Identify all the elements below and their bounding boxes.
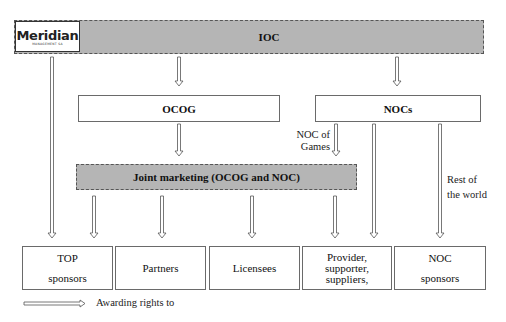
top-sponsors-line1: TOP bbox=[57, 252, 78, 264]
ioc-label: IOC bbox=[259, 31, 280, 43]
noc-sponsors-box: NOC sponsors bbox=[394, 246, 486, 290]
licensees-label: Licensees bbox=[233, 262, 276, 274]
legend-arrow-icon bbox=[24, 300, 85, 307]
joint-marketing-label: Joint marketing (OCOG and NOC) bbox=[133, 171, 300, 183]
arrow-nocs-joint bbox=[332, 124, 340, 156]
provider-line1: Provider, bbox=[327, 252, 367, 263]
arrow-joint-licensees bbox=[248, 196, 256, 238]
noc-sponsors-line1: NOC bbox=[428, 252, 451, 264]
noc-of-games-label: NOC of Games bbox=[292, 129, 330, 153]
arrow-nocs-provider bbox=[370, 124, 378, 238]
arrow-ioc-top bbox=[48, 57, 56, 238]
arrow-joint-top bbox=[90, 196, 98, 238]
noc-sponsors-line2: sponsors bbox=[421, 272, 460, 284]
noc-of-games-line2: Games bbox=[292, 141, 330, 153]
rest-of-world-line1: Rest of bbox=[447, 174, 487, 186]
meridian-logo: Meridian MANAGEMENT SA bbox=[15, 21, 80, 52]
arrow-joint-provider bbox=[331, 196, 339, 238]
legend-label: Awarding rights to bbox=[96, 297, 174, 309]
ioc-box: IOC bbox=[14, 20, 484, 54]
nocs-box: NOCs bbox=[315, 95, 481, 122]
rest-of-world-label: Rest of the world bbox=[447, 174, 487, 201]
nocs-label: NOCs bbox=[384, 103, 413, 115]
ocog-box: OCOG bbox=[78, 95, 280, 122]
arrow-joint-partners bbox=[158, 196, 166, 238]
noc-of-games-line1: NOC of bbox=[292, 129, 330, 141]
top-sponsors-line2: sponsors bbox=[48, 272, 87, 284]
top-sponsors-box: TOP sponsors bbox=[22, 246, 113, 290]
arrow-ocog-joint bbox=[175, 124, 183, 156]
partners-box: Partners bbox=[115, 246, 206, 290]
joint-marketing-box: Joint marketing (OCOG and NOC) bbox=[76, 164, 357, 190]
logo-text: Meridian bbox=[16, 28, 78, 43]
provider-line2: supporter, bbox=[325, 263, 369, 274]
arrow-ioc-ocog bbox=[175, 57, 183, 86]
arrow-ioc-nocs bbox=[393, 57, 401, 86]
partners-label: Partners bbox=[142, 262, 178, 274]
rest-of-world-line2: the world bbox=[447, 189, 487, 201]
provider-line3: suppliers, bbox=[326, 274, 368, 285]
logo-subtitle: MANAGEMENT SA bbox=[32, 42, 63, 46]
licensees-box: Licensees bbox=[209, 246, 300, 290]
arrow-nocs-nocsponsors bbox=[436, 124, 444, 238]
ocog-label: OCOG bbox=[162, 103, 196, 115]
provider-box: Provider, supporter, suppliers, bbox=[302, 246, 392, 290]
